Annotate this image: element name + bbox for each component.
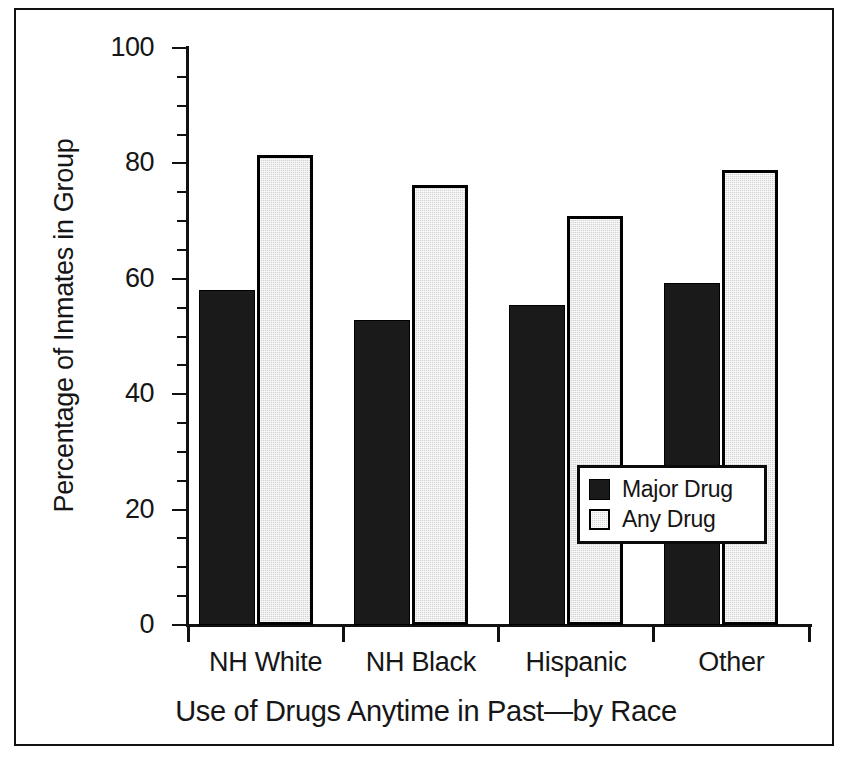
x-tick [652,627,655,642]
y-tick-minor [177,364,187,366]
y-tick-label: 0 [64,611,154,638]
x-tick [342,627,345,642]
y-tick-major [172,47,187,49]
y-tick-minor [177,336,187,338]
y-tick-minor [177,566,187,568]
bar-any-drug-hispanic [567,216,623,625]
x-tick [497,627,500,642]
x-category-label-hispanic: Hispanic [499,648,654,678]
figure-frame: 020406080100 NH WhiteNH BlackHispanicOth… [14,8,834,746]
legend-item-any-drug[interactable]: Any Drug [589,504,754,534]
x-tick [187,627,190,642]
y-tick-minor [177,134,187,136]
y-tick-minor [177,537,187,539]
bar-major-drug-other [664,283,720,625]
chart-legend: Major Drug Any Drug [577,465,767,544]
y-tick-minor [177,249,187,251]
legend-swatch-any-drug-icon [589,509,610,530]
y-tick-minor [177,307,187,309]
legend-label-any-drug: Any Drug [622,508,715,531]
bar-major-drug-nh-white [199,290,255,625]
y-tick-minor [177,422,187,424]
y-tick-major [172,162,187,164]
y-tick-major [172,278,187,280]
y-tick-major [172,624,187,626]
x-category-label-other: Other [654,648,809,678]
y-tick-major [172,393,187,395]
y-tick-minor [177,220,187,222]
legend-swatch-major-drug-icon [589,479,610,500]
bar-any-drug-nh-white [257,155,313,625]
bar-any-drug-nh-black [412,185,468,625]
x-axis-title: Use of Drugs Anytime in Past—by Race [0,695,852,728]
y-tick-major [172,509,187,511]
x-category-label-nh-black: NH Black [343,648,498,678]
x-tick [808,627,811,642]
y-tick-minor [177,105,187,107]
y-tick-minor [177,191,187,193]
y-tick-minor [177,480,187,482]
y-axis-title: Percentage of Inmates in Group [49,46,80,606]
legend-label-major-drug: Major Drug [622,478,733,501]
y-tick-minor [177,451,187,453]
bar-major-drug-hispanic [509,305,565,625]
y-tick-minor [177,76,187,78]
x-category-label-nh-white: NH White [188,648,343,678]
y-tick-minor [177,595,187,597]
bar-major-drug-nh-black [354,320,410,625]
bar-any-drug-other [722,170,778,625]
legend-item-major-drug[interactable]: Major Drug [589,474,754,504]
